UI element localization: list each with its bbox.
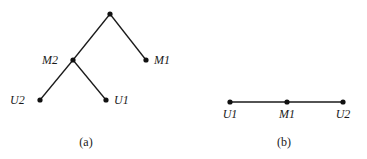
node-u2 — [340, 99, 345, 104]
diagram-canvas: M2M1U2U1(a) U1M1U2(b) — [0, 0, 367, 159]
node-u1 — [103, 97, 108, 102]
node-label-u2: U2 — [10, 93, 25, 107]
caption-a: (a) — [79, 135, 92, 149]
node-label-m2: M2 — [41, 53, 58, 67]
tree-diagram-a: M2M1U2U1(a) — [10, 11, 170, 149]
caption-b: (b) — [277, 135, 291, 149]
node-u2 — [37, 97, 42, 102]
path-diagram-b: U1M1U2(b) — [223, 99, 351, 149]
node-m2 — [70, 57, 75, 62]
node-label-u1: U1 — [223, 107, 238, 121]
node-label-u1: U1 — [114, 93, 129, 107]
node-u1 — [227, 99, 232, 104]
node-m1 — [284, 99, 289, 104]
node-root — [107, 11, 112, 16]
node-label-m1: M1 — [153, 53, 170, 67]
edge-root-M1 — [110, 14, 146, 60]
node-label-u2: U2 — [336, 107, 351, 121]
node-m1 — [143, 57, 148, 62]
node-label-m1: M1 — [278, 107, 295, 121]
edge-M2-U1 — [73, 60, 106, 100]
edge-root-M2 — [73, 14, 110, 60]
